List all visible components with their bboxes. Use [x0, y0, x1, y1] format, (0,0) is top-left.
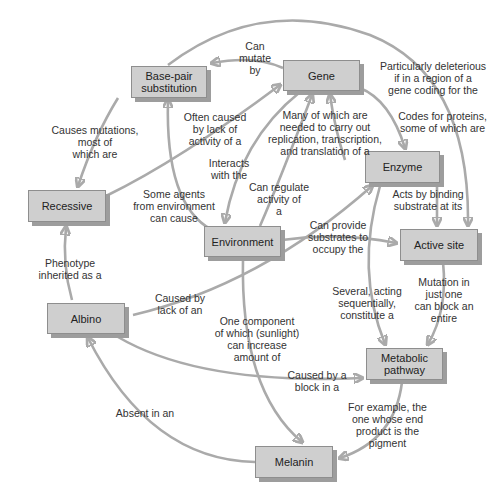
label-phenotype-inherited: Phenotype inherited as a: [30, 257, 110, 281]
label-can-provide: Can provide substrates to occupy the: [303, 219, 373, 255]
node-environment: Environment: [204, 226, 281, 257]
label-caused-by-lack: Caused by lack of an: [150, 292, 210, 316]
label-interacts-with: Interacts with the: [203, 157, 255, 181]
concept-map: Base-pair substitution Gene Enzyme Reces…: [0, 0, 503, 504]
node-metabolic-pathway: Metabolic pathway: [366, 348, 443, 380]
label-one-component: One component of which (sunlight) can in…: [208, 315, 306, 363]
label-many-of-which: Many of which are needed to carry out re…: [260, 109, 390, 157]
label-absent-in-an: Absent in an: [110, 407, 180, 419]
label-codes-for-proteins: Codes for proteins, some of which are: [390, 110, 495, 134]
node-recessive: Recessive: [28, 190, 106, 222]
node-base-pair-substitution: Base-pair substitution: [131, 66, 207, 98]
label-can-regulate: Can regulate activity of a: [244, 181, 314, 217]
label-causes-mutations: Causes mutations, most of which are: [45, 124, 145, 160]
label-often-caused: Often caused by lack of activity of a: [175, 111, 255, 147]
label-particularly-deleterious: Particularly deleterious if in a region …: [368, 60, 498, 96]
label-for-example: For example, the one whose end product i…: [340, 401, 435, 449]
node-albino: Albino: [47, 303, 125, 334]
node-active-site: Active site: [400, 229, 478, 261]
node-gene: Gene: [283, 60, 360, 91]
node-melanin: Melanin: [255, 446, 333, 478]
label-some-agents: Some agents from environment can cause: [130, 188, 218, 224]
label-can-mutate-by: Can mutate by: [230, 40, 280, 76]
label-several-acting: Several, acting sequentially, constitute…: [326, 285, 408, 321]
label-acts-by-binding: Acts by binding substrate at its: [383, 188, 473, 212]
label-mutation-in: Mutation in just one can block an entire: [413, 276, 475, 324]
label-caused-by-block: Caused by a block in a: [282, 369, 352, 393]
